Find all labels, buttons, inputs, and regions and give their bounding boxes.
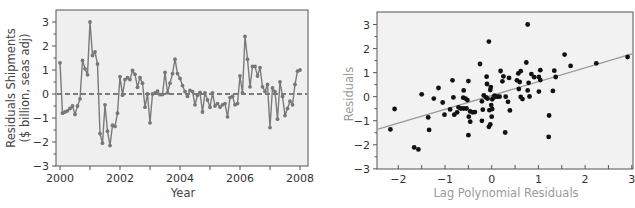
- scatter-point: [461, 88, 466, 93]
- scatter-point: [450, 78, 455, 83]
- scatter-point: [466, 133, 471, 138]
- data-point: [206, 98, 210, 102]
- scatter-point: [518, 69, 523, 74]
- data-point: [238, 74, 242, 78]
- data-point: [88, 20, 92, 24]
- scatter-point: [552, 68, 557, 73]
- scatter-point: [507, 76, 512, 81]
- scatter-point: [480, 107, 485, 112]
- data-point: [211, 91, 215, 95]
- data-point: [201, 110, 205, 114]
- data-point: [136, 85, 140, 89]
- x-tick-label: 0: [488, 173, 495, 186]
- scatter-point: [473, 110, 478, 115]
- scatter-point: [489, 114, 494, 119]
- scatter-point: [451, 95, 456, 100]
- data-point: [101, 141, 105, 145]
- y-axis: −3−2−10123: [33, 16, 56, 173]
- y-axis-title-line2: ($ billion, seas adj): [18, 34, 32, 143]
- data-point: [276, 117, 280, 121]
- scatter-point: [516, 71, 521, 76]
- scatter-point: [466, 79, 471, 84]
- scatter-point: [625, 55, 630, 60]
- data-point: [266, 83, 270, 87]
- data-point: [161, 93, 165, 97]
- y-tick-label: 0: [42, 88, 49, 101]
- scatter-point: [487, 108, 492, 113]
- scatter-point: [517, 80, 522, 85]
- scatter-point: [481, 93, 486, 98]
- data-point: [216, 102, 220, 106]
- time-series-chart: −3−2−10123 20002002200420062008 Residual…: [0, 0, 320, 208]
- scatter-point: [448, 107, 453, 112]
- scatter-point: [553, 75, 558, 80]
- x-axis: −2−10123: [390, 165, 635, 186]
- data-point: [281, 95, 285, 99]
- data-point: [98, 132, 102, 136]
- scatter-point: [490, 107, 495, 112]
- data-point: [288, 99, 292, 103]
- scatter-point: [478, 62, 483, 67]
- scatter-point: [487, 39, 492, 44]
- scatter-point: [461, 106, 466, 111]
- scatter-point: [488, 85, 493, 90]
- data-point: [93, 50, 97, 54]
- scatter-point: [515, 78, 520, 83]
- y-tick-label: 2: [363, 43, 370, 56]
- scatter-point: [480, 99, 485, 104]
- data-point: [261, 85, 265, 89]
- scatter-point: [488, 88, 493, 93]
- scatter-point: [456, 105, 461, 110]
- y-tick-label: −2: [33, 136, 49, 149]
- scatter-point: [508, 108, 513, 113]
- scatter-point: [516, 87, 521, 92]
- scatter-point: [524, 60, 529, 65]
- data-point: [58, 61, 62, 65]
- scatter-point: [594, 61, 599, 66]
- scatter-point: [547, 113, 552, 118]
- scatter-point: [461, 95, 466, 100]
- scatter-point: [465, 98, 470, 103]
- y-axis-title-line1: Residuals Shipments: [4, 28, 18, 147]
- data-point: [258, 66, 262, 70]
- scatter-point: [503, 94, 508, 99]
- scatter-point: [501, 74, 506, 79]
- data-point: [278, 80, 282, 84]
- data-point: [198, 90, 202, 94]
- data-point: [116, 111, 120, 115]
- scatter-point: [495, 94, 500, 99]
- scatter-point: [470, 110, 475, 115]
- scatter-point: [537, 89, 542, 94]
- scatter-point: [459, 106, 464, 111]
- scatter-point: [436, 86, 441, 91]
- scatter-point: [464, 106, 469, 111]
- x-tick-label: 1: [535, 173, 542, 186]
- x-tick-label: 3: [628, 173, 635, 186]
- scatter-point: [468, 109, 473, 114]
- scatter-point: [484, 74, 489, 79]
- data-point: [113, 125, 117, 129]
- data-point: [256, 74, 260, 78]
- scatter-point: [538, 78, 543, 83]
- data-point: [186, 95, 190, 99]
- scatter-point: [520, 97, 525, 102]
- data-point: [283, 114, 287, 118]
- data-point: [141, 81, 145, 85]
- scatter-point: [500, 79, 505, 84]
- scatter-point: [526, 80, 531, 85]
- data-point: [226, 115, 230, 119]
- scatter-point: [419, 92, 424, 97]
- scatter-point: [468, 119, 473, 124]
- data-point: [133, 72, 137, 76]
- data-point: [103, 103, 107, 107]
- data-point: [91, 54, 95, 58]
- y-axis: −3−2−10123: [354, 19, 377, 176]
- scatter-point: [532, 75, 537, 80]
- scatter-point: [527, 94, 532, 99]
- x-axis-title: Lag Polynomial Residuals: [433, 186, 578, 200]
- scatter-point: [440, 100, 445, 105]
- y-tick-label: −1: [354, 115, 370, 128]
- scatter-point: [388, 127, 393, 132]
- x-tick-label: −2: [390, 173, 406, 186]
- scatter-point: [537, 75, 542, 80]
